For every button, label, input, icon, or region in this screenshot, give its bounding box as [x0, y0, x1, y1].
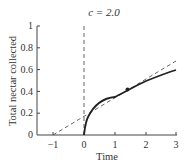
y-axis [37, 26, 40, 135]
x-axis-label: Time [96, 151, 118, 162]
y-axis-label: Total nectar collected [7, 35, 18, 126]
chart-canvas: c = 2.0 0 0.2 0.4 0.6 0.8 1 −1 0 1 2 3 T… [0, 0, 187, 166]
x-axis [37, 132, 177, 135]
y-tick-0.2: 0.2 [21, 107, 34, 118]
gain-curve [84, 70, 176, 135]
x-tick-labels: −1 0 1 2 3 [48, 139, 179, 150]
y-tick-0.8: 0.8 [21, 42, 34, 53]
x-tick-1: 1 [113, 139, 118, 150]
y-tick-0.6: 0.6 [21, 64, 34, 75]
tangent-dashed-line [53, 61, 176, 135]
x-tick-3: 3 [174, 139, 179, 150]
x-tick-0: 0 [82, 139, 87, 150]
chart-title: c = 2.0 [88, 6, 120, 18]
x-tick-2: 2 [144, 139, 149, 150]
y-tick-0: 0 [28, 129, 33, 140]
y-tick-labels: 0 0.2 0.4 0.6 0.8 1 [21, 20, 34, 140]
y-tick-0.4: 0.4 [21, 86, 34, 97]
x-tick--1: −1 [48, 139, 59, 150]
tangent-point-marker [126, 88, 130, 92]
y-tick-1: 1 [28, 20, 33, 31]
